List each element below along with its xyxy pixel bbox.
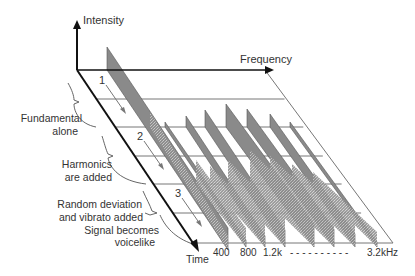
- stage-3-line2: and vibrato added: [59, 211, 143, 223]
- stage-2-line1: Harmonics: [62, 158, 112, 170]
- tick-1-2k: 1.2k: [263, 247, 283, 258]
- tick-400: 400: [213, 247, 230, 258]
- arrow-up-icon: [73, 20, 81, 29]
- arrow-right-icon: [265, 66, 274, 74]
- intensity-axis: [73, 20, 81, 70]
- stage-1-number: 1: [99, 74, 105, 86]
- stage-4-line2: voicelike: [115, 236, 155, 248]
- intensity-label: Intensity: [83, 14, 124, 26]
- frequency-label: Frequency: [240, 53, 292, 65]
- stage-1-line1: Fundamental: [21, 112, 82, 124]
- stage-2-line2: are added: [65, 171, 112, 183]
- stage-3-number: 3: [175, 187, 181, 199]
- frequency-axis: [77, 66, 274, 74]
- frequency-ticks: 400 800 1.2k - - - - - - - - - - 3.2kHz: [213, 247, 398, 258]
- tick-3-2khz: 3.2kHz: [367, 247, 398, 258]
- stage-1-line2: alone: [52, 125, 78, 137]
- stage-3-line1: Random deviation: [57, 198, 142, 210]
- spectrum-diagram: 1 2 3 Intensity Frequency Time 400 800 1…: [0, 0, 415, 276]
- tick-dashes: - - - - - - - - - -: [290, 247, 348, 258]
- stage-4-line1: Signal becomes: [84, 224, 159, 236]
- stage-2-number: 2: [137, 130, 143, 142]
- tick-800: 800: [240, 247, 257, 258]
- time-label: Time: [186, 253, 209, 265]
- diagram-canvas: 1 2 3 Intensity Frequency Time 400 800 1…: [0, 0, 415, 276]
